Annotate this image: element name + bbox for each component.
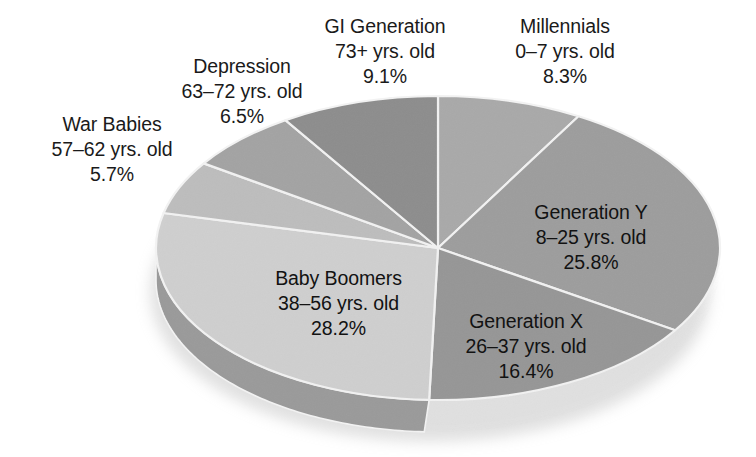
callout-war-babies: War Babies 57–62 yrs. old 5.7% (22, 112, 202, 187)
slice-label-generation-x-age: 26–37 yrs. old (426, 334, 626, 359)
slice-label-baby-boomers: Baby Boomers 38–56 yrs. old 28.2% (236, 266, 441, 341)
slice-label-generation-x-name: Generation X (426, 309, 626, 334)
callout-millennials-percent: 8.3% (475, 64, 655, 89)
callout-millennials-name: Millennials (475, 14, 655, 39)
callout-gi-generation-name: GI Generation (290, 14, 480, 39)
slice-label-generation-y-percent: 25.8% (496, 250, 686, 275)
slice-label-generation-x: Generation X 26–37 yrs. old 16.4% (426, 309, 626, 384)
slice-label-generation-x-percent: 16.4% (426, 359, 626, 384)
pie-chart-figure: GI Generation 73+ yrs. old 9.1% Millenni… (0, 0, 756, 457)
slice-label-generation-y-name: Generation Y (496, 200, 686, 225)
slice-label-generation-y-age: 8–25 yrs. old (496, 225, 686, 250)
callout-depression-age: 63–72 yrs. old (152, 79, 332, 104)
callout-millennials-age: 0–7 yrs. old (475, 39, 655, 64)
slice-label-baby-boomers-age: 38–56 yrs. old (236, 291, 441, 316)
slice-label-baby-boomers-name: Baby Boomers (236, 266, 441, 291)
slice-label-baby-boomers-percent: 28.2% (236, 316, 441, 341)
slice-label-generation-y: Generation Y 8–25 yrs. old 25.8% (496, 200, 686, 275)
callout-war-babies-age: 57–62 yrs. old (22, 137, 202, 162)
callout-war-babies-percent: 5.7% (22, 162, 202, 187)
callout-war-babies-name: War Babies (22, 112, 202, 137)
callout-millennials: Millennials 0–7 yrs. old 8.3% (475, 14, 655, 89)
callout-depression-name: Depression (152, 54, 332, 79)
